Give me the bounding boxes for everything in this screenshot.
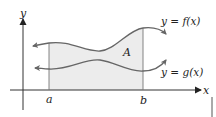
curve-f-right-tail [143, 28, 166, 34]
area-between-curves-diagram: y x a b A y = f(x) y = g(x) [0, 0, 216, 117]
y-axis-label: y [19, 7, 27, 20]
bound-label-a: a [46, 93, 53, 106]
region-label-A: A [122, 46, 131, 59]
shaded-region-A [49, 28, 143, 90]
bound-label-b: b [140, 94, 147, 107]
curve-g-label: y = g(x) [160, 66, 203, 78]
curve-f-label: y = f(x) [160, 15, 200, 27]
x-axis-label: x [203, 84, 210, 97]
